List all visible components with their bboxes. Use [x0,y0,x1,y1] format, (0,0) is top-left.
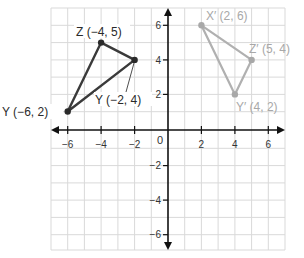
y-axis-up-arrow-icon [164,8,172,16]
coordinate-plane: −6 −4 −2 2 4 6 0 6 4 2 −2 −4 −6 Z (−4, 5… [0,0,304,258]
point-z-prime [248,57,254,63]
label-y-prime: Y′ (4, 2) [236,100,278,114]
label-x-prime: X′ (2, 6) [206,9,248,23]
x-tick-n4: −4 [95,139,107,150]
x-tick-n2: −2 [129,139,141,150]
point-y-prime [232,91,238,97]
y-tick-n4: −4 [150,195,162,206]
point-x-prime [198,22,204,28]
y-tick-4: 4 [155,55,161,66]
x-axis-right-arrow-icon [277,126,285,134]
y-tick-2: 2 [155,89,161,100]
label-z-prime: Z′ (5, 4) [249,42,290,56]
label-x: Y (−2, 4) [95,93,141,107]
y-tick-6: 6 [155,20,161,31]
y-tick-n2: −2 [150,160,162,171]
x-tick-4: 4 [232,139,238,150]
y-tick-n6: −6 [150,229,162,240]
x-axis-left-arrow-icon [51,126,59,134]
x-tick-n6: −6 [62,139,74,150]
point-y [65,108,71,114]
x-tick-6: 6 [266,139,272,150]
label-z: Z (−4, 5) [76,25,122,39]
point-z [98,39,104,45]
x-tick-2: 2 [199,139,205,150]
point-x [131,57,137,63]
label-y: Y (−6, 2) [2,105,48,119]
origin-label: 0 [157,134,163,146]
y-axis-down-arrow-icon [164,242,172,250]
